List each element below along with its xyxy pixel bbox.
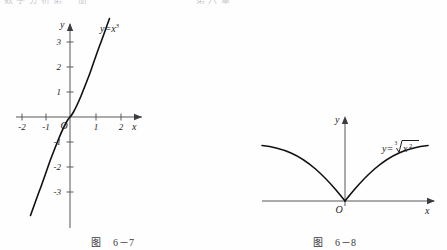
- scan-top-cut-text-right: 第 六 章: [196, 0, 230, 5]
- y-ticklabel--2: -2: [54, 162, 62, 172]
- function-label-6-8-lhs: y=: [381, 143, 393, 154]
- curve-y-equals-cbrt-x-squared-left: [262, 146, 345, 202]
- y-ticklabel-2: 2: [57, 62, 62, 72]
- function-label-6-8-radical-index: 3: [395, 140, 398, 146]
- y-axis-name-6-8: y: [334, 114, 340, 125]
- y-axis-arrow-6-7: [67, 23, 73, 31]
- function-label-6-8-radicand-exponent: 2: [409, 142, 412, 149]
- chart-6-8-svg: O x y y= 3 x 2: [222, 6, 447, 250]
- origin-label-6-8: O: [335, 204, 342, 215]
- x-axis-name-6-7: x: [131, 121, 137, 132]
- x-axis-name-6-8: x: [424, 205, 430, 216]
- function-label-6-7-base: y=x: [99, 23, 116, 34]
- function-label-6-7-exponent: 3: [115, 22, 120, 29]
- function-label-6-8-radicand: x: [402, 143, 408, 154]
- caption-6-7-number: 6－7: [113, 237, 135, 248]
- caption-6-7: 图6－7: [0, 234, 225, 249]
- caption-6-7-cjk: 图: [91, 237, 102, 248]
- x-ticklabel--2: -2: [18, 122, 26, 132]
- chart-6-7-svg: -2 -1 1 2 3 2 1 -1 -2 -3 O x y y=x3: [0, 6, 225, 250]
- x-ticklabel--1: -1: [42, 122, 50, 132]
- function-label-6-7: y=x3: [99, 22, 120, 34]
- y-ticklabel--3: -3: [54, 187, 62, 197]
- y-ticklabel-3: 3: [56, 37, 62, 47]
- radical-sign-icon: [397, 141, 420, 153]
- x-ticklabel-2: 2: [119, 122, 124, 132]
- figure-6-8: O x y y= 3 x 2 图6－8: [222, 6, 447, 250]
- y-axis-arrow-6-8: [342, 116, 348, 124]
- x-ticklabel-1: 1: [94, 122, 99, 132]
- x-axis-arrow-6-8: [427, 198, 435, 204]
- x-axis-arrow-6-7: [134, 114, 142, 120]
- page-canvas: 数 学 分 析 第 一 册 第 六 章 -2 -1 1: [0, 0, 447, 250]
- scan-top-cut-text-left: 数 学 分 析 第 一 册: [4, 0, 87, 5]
- caption-6-8-cjk: 图: [313, 237, 324, 248]
- y-ticklabel-1: 1: [57, 87, 62, 97]
- caption-6-8-number: 6－8: [335, 237, 357, 248]
- caption-6-8: 图6－8: [222, 234, 447, 249]
- figure-6-7: -2 -1 1 2 3 2 1 -1 -2 -3 O x y y=x3 图6－7: [0, 6, 225, 250]
- y-axis-name-6-7: y: [59, 19, 65, 30]
